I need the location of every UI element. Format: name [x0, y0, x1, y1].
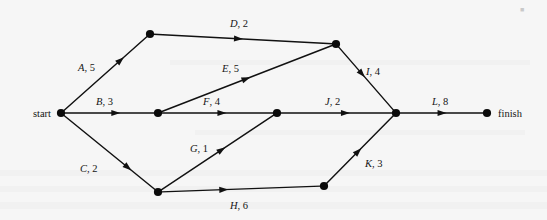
finish-label: finish — [498, 108, 523, 119]
edge-label-e: E, 5 — [221, 63, 239, 74]
node-converge — [392, 109, 400, 117]
edge-g — [161, 115, 274, 190]
node-top-right — [332, 40, 340, 48]
node-top-left — [146, 30, 154, 38]
edge-label-g: G, 1 — [190, 143, 208, 154]
arrowhead-e — [241, 77, 251, 83]
edge-h — [161, 186, 320, 192]
node-mid-center — [273, 109, 281, 117]
edge-label-a: A, 5 — [77, 62, 95, 73]
finish-node — [483, 109, 491, 117]
start-label: start — [33, 108, 51, 119]
edge-label-d: D, 2 — [229, 18, 248, 29]
edge-label-f: F, 4 — [202, 96, 221, 107]
edge-label-k: K, 3 — [364, 158, 383, 169]
arrowhead-j — [341, 110, 350, 116]
node-bottom-right — [320, 182, 328, 190]
edge-label-c: C, 2 — [80, 163, 98, 174]
edge-i — [338, 47, 393, 111]
edge-label-i: I, 4 — [365, 66, 381, 77]
arrowhead-g — [216, 147, 225, 155]
edge-c — [64, 115, 156, 190]
network-diagram-figure: ■ A, 5B, 3C, 2D, 2E, 5F, 4G, 1H, 6I, 4J,… — [0, 0, 547, 220]
diagram-canvas: A, 5B, 3C, 2D, 2E, 5F, 4G, 1H, 6I, 4J, 2… — [0, 0, 547, 220]
edge-label-h: H, 6 — [229, 200, 248, 211]
node-bottom-left — [154, 188, 162, 196]
arrowhead-d — [234, 35, 243, 41]
start-node — [57, 109, 65, 117]
edge-label-j: J, 2 — [325, 96, 340, 107]
arrowhead-b — [111, 110, 120, 116]
arrowhead-f — [217, 110, 226, 116]
arrowhead-l — [438, 110, 447, 116]
edge-label-b: B, 3 — [96, 96, 113, 107]
node-mid-left — [154, 109, 162, 117]
edge-label-l: L, 8 — [431, 96, 448, 107]
arrowhead-h — [219, 187, 228, 193]
